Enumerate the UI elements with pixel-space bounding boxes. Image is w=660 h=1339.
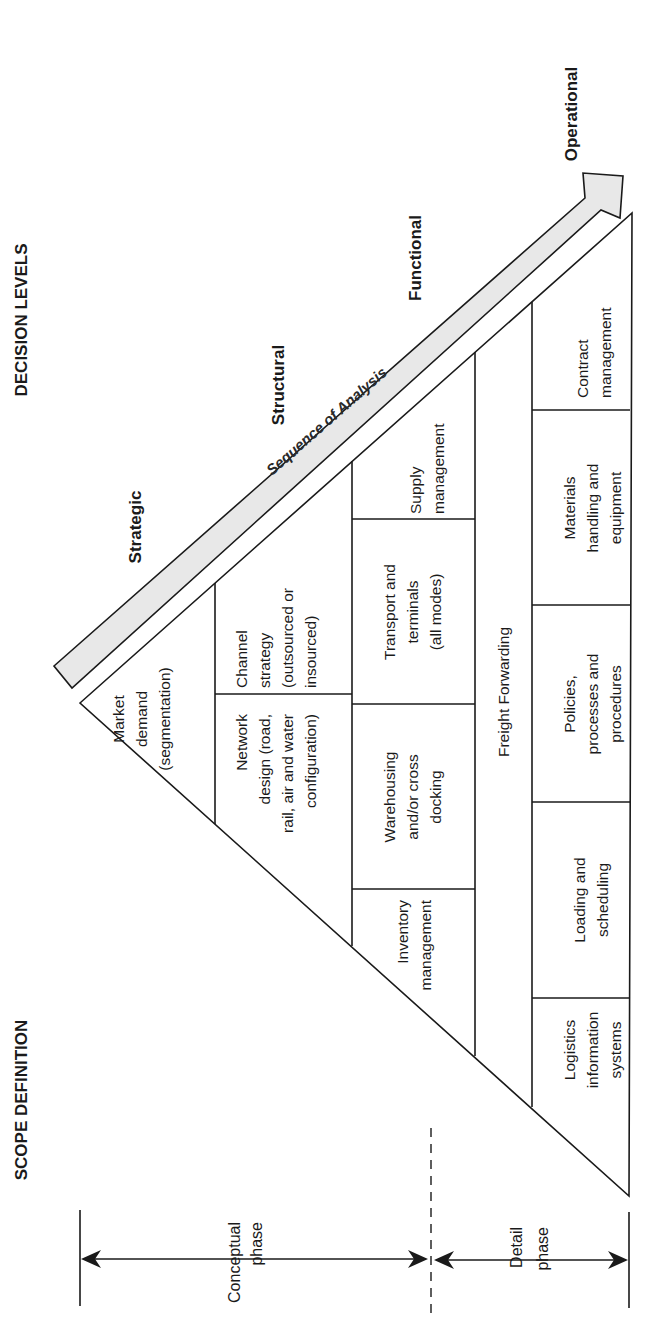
conceptual-phase-label: Conceptual phase (226, 1222, 265, 1303)
cell-line: Warehousing (381, 752, 398, 843)
arrow-shape (54, 173, 623, 688)
cell-logistics-information-systems: Logistics information systems (561, 1012, 624, 1089)
phase-line: phase (248, 1222, 265, 1266)
cell-line: equipment (607, 471, 624, 544)
cell-line: Contract (574, 339, 591, 398)
cell-contract-management: Contract management (574, 307, 614, 398)
cell-transport-terminals: Transport and terminals (all modes) (381, 564, 444, 660)
cell-line: management (597, 307, 614, 398)
cell-line: docking (427, 770, 444, 823)
cell-line: insourced) (302, 616, 319, 688)
cell-line: terminals (404, 580, 421, 643)
cell-loading-scheduling: Loading and scheduling (571, 857, 611, 942)
level-strategic: Strategic (126, 491, 145, 564)
cell-line: information (584, 1012, 601, 1089)
cell-line: Freight Forwarding (495, 627, 512, 757)
cell-line: management (417, 899, 434, 990)
cell-line: Loading and (571, 857, 588, 942)
cell-line: and/or cross (404, 754, 421, 840)
cell-line: handling and (584, 464, 601, 553)
cell-line: scheduling (594, 863, 611, 937)
cell-line: (outsourced or (279, 588, 296, 688)
cell-line: Logistics (561, 1020, 578, 1081)
cell-freight-forwarding: Freight Forwarding (495, 627, 512, 757)
level-functional: Functional (406, 215, 425, 301)
cell-line: Supply (407, 466, 424, 514)
cell-line: management (430, 423, 447, 514)
cell-line: processes and (584, 654, 601, 755)
cell-line: (segmentation) (156, 667, 173, 770)
cell-line: Channel (233, 630, 250, 688)
detail-phase-label: Detail phase (508, 1227, 551, 1271)
cell-line: Materials (561, 476, 578, 539)
cell-channel-strategy: Channel strategy (outsourced or insource… (233, 588, 319, 688)
cell-line: configuration) (302, 714, 319, 808)
scope-definition-header: SCOPE DEFINITION (12, 1020, 31, 1181)
cell-warehousing: Warehousing and/or cross docking (381, 752, 444, 843)
scope-dimension-lines (80, 1128, 629, 1314)
cell-line: design (road, (256, 714, 273, 804)
cell-supply-management: Supply management (407, 423, 447, 514)
cell-line: systems (607, 1021, 624, 1078)
cell-line: (all modes) (427, 574, 444, 651)
decision-levels-header: DECISION LEVELS (12, 243, 31, 396)
phase-line: phase (534, 1227, 551, 1271)
cell-line: Policies, (561, 675, 578, 733)
cell-line: Transport and (381, 564, 398, 660)
cell-line: strategy (256, 633, 273, 688)
sequence-of-analysis-arrow: Sequence of Analysis (54, 173, 623, 688)
cell-line: demand (133, 691, 150, 747)
cell-line: procedures (607, 665, 624, 743)
phase-line: Conceptual (226, 1222, 243, 1303)
cell-line: Inventory (394, 900, 411, 964)
logistics-decision-pyramid-diagram: Sequence of Analysis Market demand (segm… (0, 0, 660, 1339)
cell-line: rail, air and water (279, 714, 296, 833)
cell-line: Network (233, 714, 250, 771)
cell-line: Market (110, 695, 127, 743)
cell-network-design: Network design (road, rail, air and wate… (233, 714, 319, 833)
cell-policies-processes-procedures: Policies, processes and procedures (561, 654, 624, 755)
level-operational: Operational (562, 67, 581, 161)
phase-line: Detail (508, 1227, 525, 1268)
level-structural: Structural (269, 345, 288, 425)
cell-inventory-management: Inventory management (394, 899, 434, 990)
cell-market-demand: Market demand (segmentation) (110, 667, 173, 770)
cell-materials-handling-equipment: Materials handling and equipment (561, 464, 624, 553)
